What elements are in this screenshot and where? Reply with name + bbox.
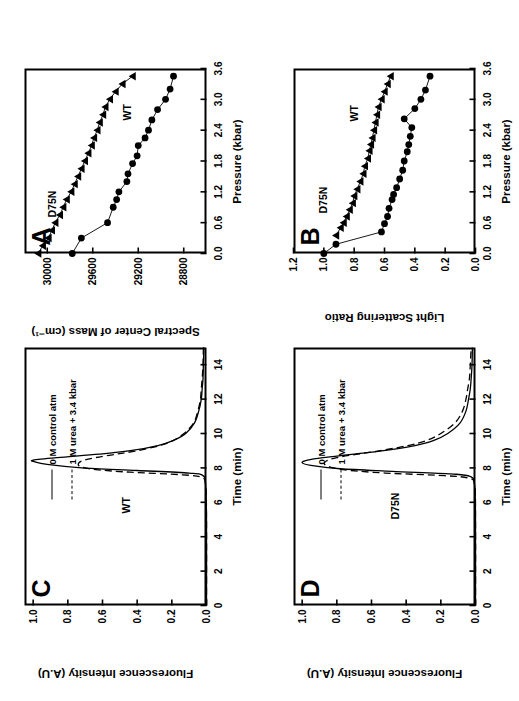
- panel-a-xaxis-title: Pressure (kbar): [230, 119, 242, 203]
- y-tick-label: 0.4: [409, 257, 419, 295]
- panel-a-yaxis-title: Spectral Center of Mass (cm⁻¹): [31, 325, 199, 337]
- y-tick-label: 0.6: [379, 257, 389, 295]
- y-tick-label: 1.0: [28, 609, 38, 647]
- solid-line-icon: [315, 469, 325, 499]
- panel-c-letter: C: [28, 579, 53, 597]
- panel-a-letter: A: [28, 227, 53, 245]
- x-tick-label: 3.6: [482, 61, 492, 75]
- x-tick-label: 0.0: [213, 246, 223, 260]
- y-tick-label: 0.0: [470, 257, 480, 295]
- x-tick-label: 10: [482, 427, 492, 438]
- solid-line-icon: [46, 469, 56, 499]
- trace-dashed: [78, 347, 206, 605]
- series-wt: [68, 72, 176, 256]
- x-tick-label: 6: [482, 499, 492, 505]
- x-tick-label: 6: [213, 499, 223, 505]
- panel-d-legend-label-0: 0 M control atm: [315, 394, 326, 464]
- x-tick-label: 0: [213, 602, 223, 608]
- y-tick-label: 1.2: [288, 257, 298, 295]
- x-tick-label: 1.2: [213, 184, 223, 198]
- y-tick-label: 0.6: [97, 609, 107, 647]
- y-tick-label: 0.6: [366, 609, 376, 647]
- panel-b-label-wt: WT: [348, 105, 359, 121]
- x-tick-label: 0.0: [482, 246, 492, 260]
- panel-c-yaxis-title: Fluorescence Intensity (A.U): [37, 667, 192, 679]
- panel-c-legend: 0 M control atm 1 M urea + 3.4 kbar: [44, 379, 84, 499]
- x-tick-label: 8: [482, 465, 492, 471]
- panel-d-yaxis-title: Fluorescence Intensity (A.U): [306, 667, 461, 679]
- y-tick-label: 0.0: [470, 609, 480, 647]
- y-tick-label: 28800: [178, 257, 188, 295]
- y-tick-label: 30000: [42, 257, 52, 295]
- x-tick-label: 3.0: [213, 92, 223, 106]
- y-tick-label: 1.0: [297, 609, 307, 647]
- panel-b: B D75N WT 0.00.61.21.82.43.03.60.00.20.4…: [293, 68, 475, 253]
- y-tick-label: 0.8: [349, 257, 359, 295]
- x-tick-label: 8: [213, 465, 223, 471]
- x-tick-label: 14: [482, 359, 492, 370]
- y-tick-label: 0.0: [201, 609, 211, 647]
- series-wt: [320, 72, 433, 256]
- panel-d-xaxis-title: Time (min): [499, 447, 511, 505]
- series-d75n: [332, 71, 394, 239]
- x-tick-label: 2.4: [213, 123, 223, 137]
- panel-c-legend-label-0: 0 M control atm: [46, 394, 57, 464]
- x-tick-label: 2: [482, 568, 492, 574]
- y-tick-label: 0.2: [166, 609, 176, 647]
- x-tick-label: 2.4: [482, 123, 492, 137]
- x-tick-label: 0.6: [213, 215, 223, 229]
- x-tick-label: 1.8: [482, 154, 492, 168]
- panel-b-yaxis-title: Light Scattering Ratio: [324, 311, 443, 323]
- x-tick-label: 14: [213, 359, 223, 370]
- panel-d-legend-label-1: 1 M urea + 3.4 kbar: [335, 379, 346, 464]
- panel-c-legend-item-1: 1 M urea + 3.4 kbar: [64, 379, 78, 499]
- figure-panel-grid: C WT 0 M control atm 1 M urea + 3.4 kbar…: [0, 0, 519, 701]
- panel-d-legend-item-1: 1 M urea + 3.4 kbar: [333, 379, 347, 499]
- panel-a-scatter: [24, 68, 206, 253]
- panel-b-xaxis-title: Pressure (kbar): [499, 119, 511, 203]
- x-tick-label: 0.6: [482, 215, 492, 229]
- y-tick-label: 1.0: [318, 257, 328, 295]
- y-tick-label: 0.2: [435, 609, 445, 647]
- x-tick-label: 0: [482, 602, 492, 608]
- x-tick-label: 1.8: [213, 154, 223, 168]
- panel-c-legend-label-1: 1 M urea + 3.4 kbar: [66, 379, 77, 464]
- panel-c-sample-label: WT: [120, 497, 131, 513]
- figure-canvas: C WT 0 M control atm 1 M urea + 3.4 kbar…: [0, 0, 519, 701]
- panel-a: A D75N WT 0.00.61.21.82.43.03.6288002920…: [24, 68, 206, 253]
- x-tick-label: 2: [213, 568, 223, 574]
- x-tick-label: 1.2: [482, 184, 492, 198]
- panel-d-legend-item-0: 0 M control atm: [313, 379, 327, 499]
- x-tick-label: 3.6: [213, 61, 223, 75]
- y-tick-label: 29600: [87, 257, 97, 295]
- panel-c: C WT 0 M control atm 1 M urea + 3.4 kbar…: [24, 347, 206, 605]
- y-tick-label: 0.2: [440, 257, 450, 295]
- x-tick-label: 4: [213, 533, 223, 539]
- x-tick-label: 12: [213, 393, 223, 404]
- panel-d-legend: 0 M control atm 1 M urea + 3.4 kbar: [313, 379, 353, 499]
- y-tick-label: 0.4: [132, 609, 142, 647]
- panel-b-letter: B: [297, 227, 322, 245]
- x-tick-label: 3.0: [482, 92, 492, 106]
- panel-b-scatter: [293, 68, 475, 253]
- panel-d-letter: D: [297, 579, 322, 597]
- y-tick-label: 0.8: [331, 609, 341, 647]
- y-tick-label: 29200: [133, 257, 143, 295]
- panel-b-label-d75n: D75N: [317, 186, 328, 213]
- panel-d-sample-label: D75N: [389, 492, 400, 519]
- y-tick-label: 0.8: [62, 609, 72, 647]
- dashed-line-icon: [66, 469, 76, 499]
- panel-d: D D75N 0 M control atm 1 M urea + 3.4 kb…: [293, 347, 475, 605]
- x-tick-label: 12: [482, 393, 492, 404]
- x-tick-label: 4: [482, 533, 492, 539]
- panel-c-xaxis-title: Time (min): [230, 447, 242, 505]
- panel-a-label-wt: WT: [121, 104, 132, 120]
- x-tick-label: 10: [213, 427, 223, 438]
- dashed-line-icon: [335, 469, 345, 499]
- panel-c-legend-item-0: 0 M control atm: [44, 379, 58, 499]
- panel-a-label-d75n: D75N: [46, 190, 57, 217]
- y-tick-label: 0.4: [401, 609, 411, 647]
